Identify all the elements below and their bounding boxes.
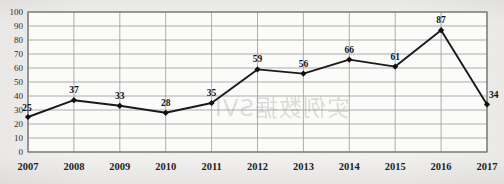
x-axis-tick-label: 2015 — [385, 161, 406, 172]
y-axis-tick-labels: 0102030405060708090100 — [10, 7, 24, 157]
y-axis-tick-label: 80 — [14, 35, 24, 45]
watermark: 实例数据SVI — [214, 95, 350, 121]
data-point-label: 33 — [115, 91, 125, 101]
x-axis-tick-label: 2011 — [201, 161, 221, 172]
chart-svg: 实例数据SVI 0102030405060708090100 200720082… — [0, 0, 504, 184]
data-point-label: 87 — [436, 15, 446, 25]
x-axis-tick-label: 2013 — [293, 161, 314, 172]
data-point-label: 59 — [253, 54, 263, 64]
data-point-label: 34 — [489, 90, 499, 100]
y-axis-tick-label: 20 — [14, 119, 24, 129]
svg-text:实例数据SVI: 实例数据SVI — [214, 95, 350, 121]
data-point-label: 37 — [69, 85, 79, 95]
y-axis-tick-label: 90 — [14, 21, 24, 31]
y-axis-tick-label: 40 — [14, 91, 24, 101]
x-axis-tick-label: 2017 — [477, 161, 498, 172]
data-point-label: 25 — [22, 103, 32, 113]
y-axis-tick-label: 100 — [10, 7, 24, 17]
x-axis-tick-label: 2014 — [339, 161, 361, 172]
y-axis-tick-label: 50 — [14, 77, 24, 87]
x-axis-tick-labels: 2007200820092010201120122013201420152016… — [18, 161, 498, 172]
y-axis-tick-label: 70 — [14, 49, 24, 59]
y-axis-tick-label: 0 — [19, 147, 24, 157]
data-point-label: 28 — [161, 98, 171, 108]
data-point-label: 66 — [345, 45, 355, 55]
x-axis-tick-label: 2008 — [63, 161, 84, 172]
y-axis-tick-label: 60 — [14, 63, 24, 73]
data-point-label: 61 — [390, 52, 400, 62]
x-axis-tick-label: 2016 — [431, 161, 452, 172]
x-axis-tick-label: 2010 — [155, 161, 176, 172]
x-axis-tick-label: 2009 — [109, 161, 130, 172]
y-axis-tick-label: 10 — [14, 133, 24, 143]
x-axis-tick-label: 2012 — [247, 161, 268, 172]
x-axis-tick-label: 2007 — [18, 161, 39, 172]
line-chart: 实例数据SVI 0102030405060708090100 200720082… — [0, 0, 504, 184]
data-point-label: 56 — [299, 59, 309, 69]
data-point-label: 35 — [207, 88, 217, 98]
